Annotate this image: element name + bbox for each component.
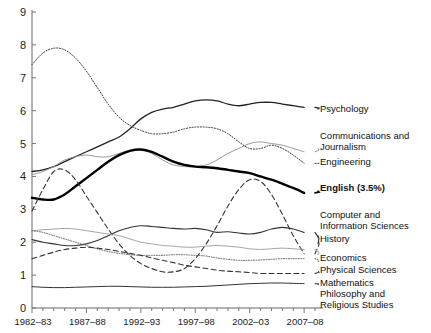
svg-text:1997–98: 1997–98 [178,316,215,327]
svg-text:2002–03: 2002–03 [232,316,269,327]
svg-text:0: 0 [20,302,26,314]
svg-text:1: 1 [20,269,26,281]
legend-label-philosophy-line1: Philosophy and [320,289,393,300]
series-leader-communications-and-journalism [315,149,319,152]
series-line-computer-and-information-sciences [32,169,304,272]
legend-label-english: English (3.5%) [320,183,385,194]
series-leader-physical-sciences [315,259,319,262]
svg-text:1982–83: 1982–83 [15,316,52,327]
svg-text:6: 6 [20,105,26,117]
svg-text:1992–93: 1992–93 [123,316,160,327]
series-leader-mathematics [315,271,319,273]
svg-text:4: 4 [20,170,26,182]
svg-text:2007–08: 2007–08 [287,316,324,327]
legend-label-philosophy-line2: Religious Studies [320,300,393,311]
legend-label-communications-line1: Communications and [320,131,409,142]
legend-label-history: History [320,234,350,245]
x-axis-ticks: 1982–831987–881992–931997–982002–032007–… [15,308,324,327]
legend-label-computer-sciences: Computer and Information Sciences [320,210,409,231]
y-axis-ticks: 0123456789 [20,6,36,314]
legend-label-computer-line2: Information Sciences [320,221,409,232]
svg-text:8: 8 [20,39,26,51]
legend-label-engineering: Engineering [320,157,371,168]
series-line-mathematics [32,247,304,273]
legend-label-mathematics: Mathematics [320,278,374,289]
legend-label-computer-line1: Computer and [320,210,409,221]
chart-container: 0123456789 1982–831987–881992–931997–982… [0,0,431,333]
legend-label-communications: Communications and Journalism [320,131,409,152]
legend-label-physical-sciences: Physical Sciences [320,265,397,276]
series-leader-philosophy-and-religious-studies [315,284,319,285]
legend-label-economics: Economics [320,253,366,264]
svg-text:5: 5 [20,138,26,150]
legend-label-psychology: Psychology [320,104,369,115]
svg-text:9: 9 [20,6,26,18]
svg-text:7: 7 [20,72,26,84]
legend-label-philosophy: Philosophy and Religious Studies [320,289,393,310]
svg-text:2: 2 [20,236,26,248]
series-line-engineering [32,48,304,163]
chart-axes [32,10,323,308]
legend-label-communications-line2: Journalism [320,142,409,153]
series-line-philosophy-and-religious-studies [32,283,304,288]
series-leader-english [315,191,319,193]
svg-text:3: 3 [20,203,26,215]
data-series-group [32,48,319,288]
svg-text:1987–88: 1987–88 [69,316,106,327]
series-line-psychology [32,100,304,172]
series-leader-history [315,232,319,244]
series-leader-psychology [315,107,319,109]
